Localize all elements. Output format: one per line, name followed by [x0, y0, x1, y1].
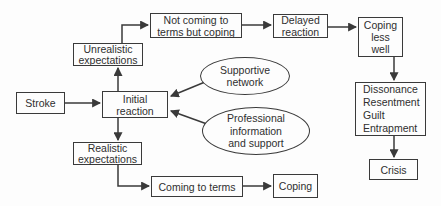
- node-initial-reaction: Initial reaction: [102, 91, 168, 118]
- node-supportive-network: Supportive network: [200, 57, 290, 95]
- node-crisis: Crisis: [369, 159, 418, 180]
- node-coming-to-terms: Coming to terms: [151, 176, 243, 197]
- arrow-professional-to-initial: [171, 111, 207, 124]
- node-stroke: Stroke: [16, 92, 65, 114]
- flowchart-diagram: Stroke Initial reaction Unrealistic expe…: [0, 0, 441, 206]
- arrow-unrealistic-to-not-coming: [122, 25, 148, 43]
- node-not-coming-to-terms-but-coping: Not coming to terms but coping: [150, 13, 242, 38]
- node-delayed-reaction: Delayed reaction: [273, 14, 328, 38]
- node-realistic-expectations: Realistic expectations: [73, 142, 142, 165]
- node-coping-less-well: Coping less well: [358, 17, 403, 57]
- node-dissonance-resentment-guilt-entrapment: Dissonance Resentment Guilt Entrapment: [355, 82, 426, 136]
- node-unrealistic-expectations: Unrealistic expectations: [73, 43, 143, 66]
- arrow-supportive-to-initial: [171, 82, 205, 96]
- arrow-realistic-to-coming-to-terms: [118, 165, 149, 186]
- node-professional-information-and-support: Professional information and support: [202, 107, 310, 155]
- node-coping: Coping: [273, 174, 318, 198]
